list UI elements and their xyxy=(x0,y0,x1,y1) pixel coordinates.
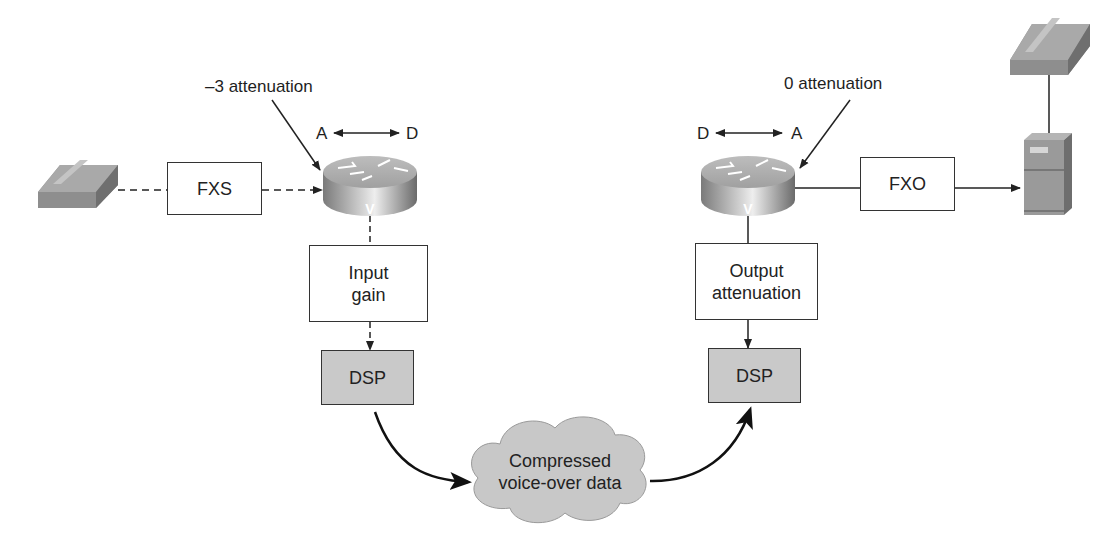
right-conversion-to: A xyxy=(791,124,802,144)
input-gain-line1: Input xyxy=(348,262,388,284)
left-conversion-from: A xyxy=(316,124,327,144)
svg-text:V: V xyxy=(743,201,753,217)
output-attenuation-line1: Output xyxy=(729,260,783,282)
cloud-label-line1: Compressed xyxy=(470,450,650,472)
pbx-server-icon xyxy=(1024,133,1072,215)
cloud-label: Compressed voice-over data xyxy=(470,450,650,494)
output-attenuation-box: Output attenuation xyxy=(695,243,818,320)
router-icon-right: V xyxy=(701,156,795,217)
right-dsp-box: DSP xyxy=(708,348,801,403)
input-gain-box: Input gain xyxy=(309,245,428,322)
fxs-box: FXS xyxy=(167,162,262,215)
left-attenuation-label: –3 attenuation xyxy=(205,77,313,97)
router-icon-left: V xyxy=(323,156,417,217)
left-dsp-box: DSP xyxy=(321,350,414,405)
cloud-label-line2: voice-over data xyxy=(470,472,650,494)
output-attenuation-line2: attenuation xyxy=(712,282,801,304)
right-attenuation-label: 0 attenuation xyxy=(784,74,882,94)
svg-text:V: V xyxy=(365,201,375,217)
left-conversion-to: D xyxy=(406,124,418,144)
fxo-box: FXO xyxy=(860,157,955,211)
input-gain-line2: gain xyxy=(351,284,385,306)
telephone-icon-right xyxy=(1010,18,1090,75)
right-conversion-from: D xyxy=(697,124,709,144)
telephone-icon-left xyxy=(0,160,118,208)
